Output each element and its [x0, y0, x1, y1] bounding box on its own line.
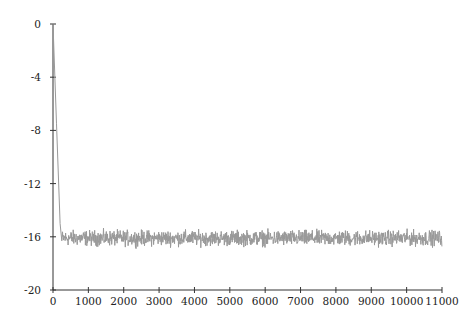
x-tick-label: 4000: [181, 295, 208, 307]
y-tick-label: -4: [31, 71, 42, 83]
x-tick-label: 8000: [323, 295, 350, 307]
x-tick-label: 2000: [110, 295, 137, 307]
y-tick-label: -20: [24, 284, 41, 296]
axes: [53, 24, 442, 290]
data-line: [53, 24, 442, 249]
x-tick-label: 3000: [146, 295, 173, 307]
line-chart: 0-4-8-12-16-2001000200030004000500060007…: [0, 0, 469, 324]
y-tick-label: -12: [24, 178, 41, 190]
x-tick-label: 6000: [252, 295, 279, 307]
x-tick-label: 10000: [390, 295, 423, 307]
y-tick-label: 0: [34, 18, 41, 30]
x-tick-label: 11000: [425, 295, 458, 307]
x-tick-label: 1000: [75, 295, 102, 307]
x-tick-label: 0: [50, 295, 57, 307]
ticks: 0-4-8-12-16-2001000200030004000500060007…: [24, 18, 459, 307]
x-tick-label: 5000: [216, 295, 243, 307]
y-tick-label: -16: [24, 231, 41, 243]
plot-area: [53, 24, 442, 249]
y-tick-label: -8: [31, 124, 41, 136]
x-tick-label: 7000: [287, 295, 314, 307]
x-tick-label: 9000: [358, 295, 385, 307]
